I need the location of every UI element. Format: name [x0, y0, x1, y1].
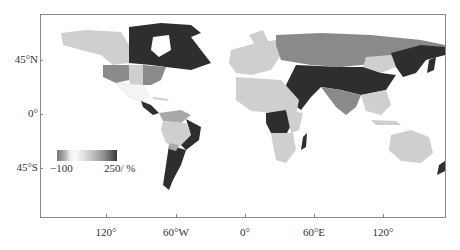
- x-tick-120w: [106, 214, 107, 218]
- x-tick-120e: [383, 214, 384, 218]
- region-central-us: [129, 65, 143, 87]
- x-label-120e: 120°: [363, 226, 403, 238]
- colorbar: [57, 150, 117, 161]
- region-southern-south-america: [163, 145, 186, 190]
- map-frame: [40, 14, 446, 218]
- region-indonesia: [371, 120, 401, 125]
- region-japan: [427, 57, 436, 73]
- y-tick-45s: [40, 168, 43, 169]
- region-central-america: [141, 101, 159, 115]
- y-label-45n: 45°N: [2, 53, 38, 65]
- x-label-60w: 60°W: [156, 226, 196, 238]
- y-tick-45n: [40, 60, 43, 61]
- region-mexico: [116, 83, 149, 101]
- y-label-0: 0°: [2, 107, 38, 119]
- x-label-0: 0°: [225, 226, 265, 238]
- x-tick-0: [245, 214, 246, 218]
- region-southern-africa: [271, 133, 296, 163]
- region-eastern-us: [143, 65, 166, 85]
- region-australia: [389, 130, 433, 163]
- region-new-zealand: [437, 161, 445, 175]
- region-western-us: [103, 65, 129, 83]
- x-tick-60e: [314, 214, 315, 218]
- colorbar-max-label: 250/ %: [104, 162, 135, 174]
- region-alaska-wcanada: [61, 30, 129, 65]
- x-label-60e: 60°E: [294, 226, 334, 238]
- x-label-120w: 120°: [86, 226, 126, 238]
- y-tick-0: [40, 114, 43, 115]
- region-n-south-america: [159, 110, 191, 123]
- x-tick-60w: [176, 214, 177, 218]
- caribbean: [153, 97, 169, 101]
- world-map: [41, 15, 445, 217]
- y-label-45s: 45°S: [2, 161, 38, 173]
- colorbar-min-label: −100: [50, 162, 73, 174]
- region-madagascar: [301, 133, 307, 150]
